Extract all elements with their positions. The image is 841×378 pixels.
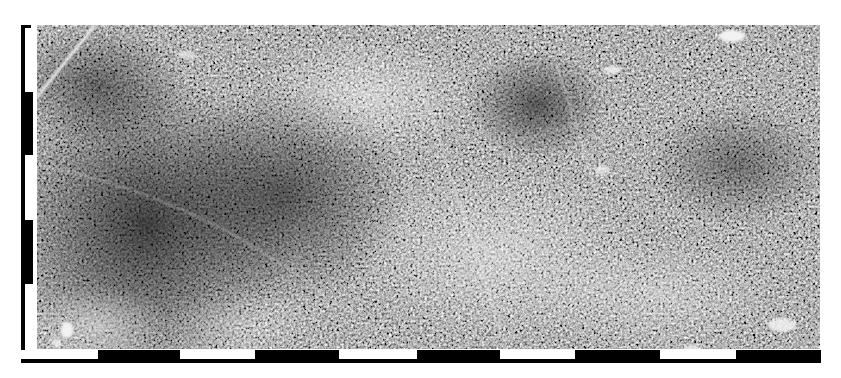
vertical-scale-bar [21,25,35,350]
horizontal-scale-bar [21,349,821,363]
horizontal-scale-segment [180,350,255,359]
vertical-scale-segment [21,220,33,284]
clearing-southeast [768,318,796,332]
horizontal-scale-segment [21,350,98,359]
horizontal-scale-segment [660,350,736,359]
clearing-northeast [719,30,745,42]
horizontal-scale-segment [255,350,339,362]
horizontal-scale-segment [736,350,821,362]
vertical-scale-spine [21,25,25,350]
aerial-image-texture [37,25,820,349]
aerial-figure [0,0,841,378]
horizontal-scale-segment [417,350,500,362]
aerial-imagery [37,25,820,349]
horizontal-scale-segment [339,350,417,359]
horizontal-scale-segment [500,350,575,359]
vertical-scale-top-tick [21,25,31,28]
horizontal-scale-segment [575,350,660,362]
horizontal-scale-segment [98,350,180,362]
vertical-scale-segment [21,92,33,155]
clearing-southwest [61,322,73,338]
